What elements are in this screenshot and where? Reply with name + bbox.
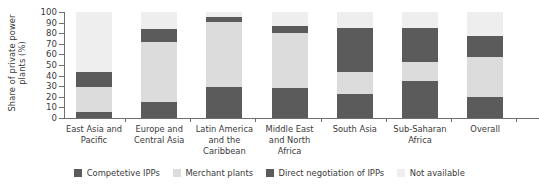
bar-segment — [272, 12, 308, 26]
x-tick-mark — [190, 118, 191, 122]
bar-segment — [141, 12, 177, 29]
legend-label: Merchant plants — [185, 169, 253, 177]
stacked-bar — [337, 12, 373, 118]
x-tick-mark — [451, 118, 452, 122]
bar-segment — [402, 12, 438, 28]
x-axis-label-line: Africa — [257, 146, 322, 157]
bar-segment — [76, 12, 112, 72]
stacked-bar — [141, 12, 177, 118]
y-tick-mark — [59, 12, 64, 13]
x-axis-label: Europe andCentral Asia — [127, 124, 192, 146]
bar-segment — [76, 87, 112, 111]
x-tick-mark — [255, 118, 256, 122]
chart-figure: Share of private power plants (%) 010203… — [0, 0, 539, 190]
y-tick-mark — [59, 86, 64, 87]
bar-segment — [272, 26, 308, 33]
bar-segment — [141, 29, 177, 42]
y-tick-label: 80 — [46, 29, 57, 38]
x-axis-label: Overall — [453, 124, 518, 135]
y-tick-mark — [59, 65, 64, 66]
x-tick-mark — [125, 118, 126, 122]
x-axis-label-line: Pacific — [61, 135, 126, 146]
stacked-bar — [272, 12, 308, 118]
legend-swatch-icon — [397, 169, 405, 177]
y-tick-mark — [59, 44, 64, 45]
stacked-bar — [206, 12, 242, 118]
y-tick-label: 40 — [46, 71, 57, 80]
x-axis-label: East Asia andPacific — [61, 124, 126, 146]
x-axis-label: Sub-SaharanAfrica — [387, 124, 452, 146]
bar-segment — [467, 12, 503, 36]
x-tick-mark — [321, 118, 322, 122]
x-axis-label-line: South Asia — [322, 124, 387, 135]
legend-item[interactable]: Merchant plants — [173, 169, 253, 177]
bar-segment — [337, 94, 373, 118]
legend-item[interactable]: Direct negotiation of IPPs — [266, 169, 384, 177]
y-tick-label: 60 — [46, 50, 57, 59]
x-axis-label-line: Caribbean — [192, 146, 257, 157]
x-axis-label-line: Europe and — [127, 124, 192, 135]
bar-segment — [337, 28, 373, 73]
bar-segment — [467, 57, 503, 97]
bar-segment — [337, 12, 373, 28]
legend-swatch-icon — [173, 169, 181, 177]
bar-segment — [402, 62, 438, 81]
y-tick-mark — [59, 107, 64, 108]
bar-segment — [206, 22, 242, 88]
x-axis-label-line: and the — [192, 135, 257, 146]
y-axis-line — [64, 12, 65, 118]
bar-segment — [272, 33, 308, 88]
y-tick-mark — [59, 76, 64, 77]
y-axis-title: Share of private power plants (%) — [0, 8, 72, 118]
y-tick-label: 100 — [41, 8, 57, 17]
x-axis-line — [64, 118, 539, 119]
y-tick-label: 50 — [46, 61, 57, 70]
y-tick-label: 10 — [46, 103, 57, 112]
y-tick-label: 30 — [46, 82, 57, 91]
x-tick-mark — [386, 118, 387, 122]
x-axis-label-line: and North — [257, 135, 322, 146]
y-tick-mark — [59, 33, 64, 34]
bar-segment — [141, 42, 177, 102]
y-tick-mark — [59, 54, 64, 55]
bar-segment — [467, 97, 503, 118]
legend-item[interactable]: Competetive IPPs — [74, 169, 160, 177]
bar-segment — [141, 102, 177, 118]
legend-label: Direct negotiation of IPPs — [279, 169, 385, 177]
x-axis-label: Latin Americaand theCaribbean — [192, 124, 257, 157]
x-axis-label: South Asia — [322, 124, 387, 135]
x-axis-label-line: Sub-Saharan — [387, 124, 452, 135]
x-axis-label-line: Central Asia — [127, 135, 192, 146]
plot-area: 0102030405060708090100 — [64, 12, 522, 118]
stacked-bar — [76, 12, 112, 118]
y-tick-mark — [59, 97, 64, 98]
legend-swatch-icon — [74, 169, 82, 177]
x-tick-mark — [516, 118, 517, 122]
bar-segment — [76, 112, 112, 118]
y-tick-label: 90 — [46, 18, 57, 27]
y-tick-label: 70 — [46, 40, 57, 49]
bar-segment — [402, 28, 438, 62]
legend-label: Not available — [410, 169, 465, 177]
legend-swatch-icon — [266, 169, 274, 177]
y-tick-label: 20 — [46, 93, 57, 102]
y-tick-mark — [59, 23, 64, 24]
stacked-bar — [467, 12, 503, 118]
bar-segment — [76, 72, 112, 87]
legend-label: Competetive IPPs — [87, 169, 160, 177]
bar-segment — [272, 88, 308, 118]
stacked-bar — [402, 12, 438, 118]
x-axis-label-line: Latin America — [192, 124, 257, 135]
chart-legend: Competetive IPPsMerchant plantsDirect ne… — [0, 169, 539, 177]
legend-item[interactable]: Not available — [397, 169, 465, 177]
x-axis-label-line: Overall — [453, 124, 518, 135]
bar-segment — [467, 36, 503, 56]
bar-segment — [206, 87, 242, 118]
bar-segment — [402, 81, 438, 118]
y-tick-label: 0 — [52, 114, 57, 123]
x-axis-label: Middle Eastand NorthAfrica — [257, 124, 322, 157]
x-axis-label-line: Africa — [387, 135, 452, 146]
y-tick-mark — [59, 118, 64, 119]
x-axis-label-line: East Asia and — [61, 124, 126, 135]
x-axis-label-line: Middle East — [257, 124, 322, 135]
